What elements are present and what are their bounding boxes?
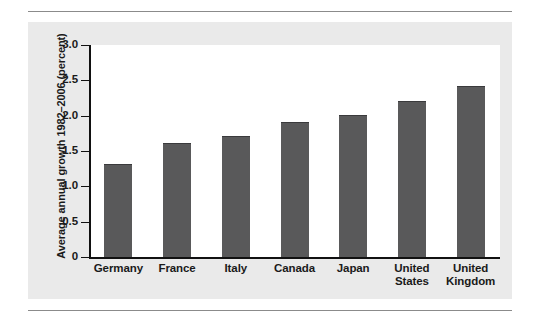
x-axis-line bbox=[89, 257, 500, 259]
y-axis-tick-mark bbox=[81, 222, 89, 223]
y-axis-tick-label: 0 bbox=[30, 250, 78, 262]
chart-panel: 00.51.01.52.02.53.0 Average annual growt… bbox=[28, 22, 512, 299]
y-axis-tick-mark bbox=[81, 151, 89, 152]
y-axis-tick-mark bbox=[81, 80, 89, 81]
y-axis-tick-label: 2.5 bbox=[30, 73, 78, 85]
x-axis-category-label-line: Kingdom bbox=[441, 275, 500, 288]
y-axis-tick-mark bbox=[81, 257, 89, 258]
bar bbox=[281, 122, 309, 257]
bar bbox=[457, 86, 485, 257]
x-axis-category-labels: GermanyFranceItalyCanadaJapanUnitedState… bbox=[89, 262, 500, 302]
x-axis-category-label: Japan bbox=[324, 262, 383, 275]
y-axis-tick-label: 1.0 bbox=[30, 179, 78, 191]
x-axis-category-label-line: France bbox=[148, 262, 207, 275]
x-axis-category-label-line: United bbox=[441, 262, 500, 275]
x-axis-category-label-line: Germany bbox=[89, 262, 148, 275]
bar bbox=[104, 164, 132, 257]
x-axis-category-label-line: States bbox=[383, 275, 442, 288]
x-axis-category-label: Italy bbox=[206, 262, 265, 275]
bar bbox=[222, 136, 250, 257]
x-axis-category-label: UnitedStates bbox=[383, 262, 442, 288]
y-axis-tick-label: 0.5 bbox=[30, 215, 78, 227]
y-axis-tick-mark bbox=[81, 116, 89, 117]
y-axis-tick-mark bbox=[81, 186, 89, 187]
bar-series bbox=[89, 45, 500, 257]
y-axis-tick-label: 1.5 bbox=[30, 144, 78, 156]
figure-container: 00.51.01.52.02.53.0 Average annual growt… bbox=[0, 0, 539, 319]
y-axis-tick-label: 2.0 bbox=[30, 109, 78, 121]
x-axis-category-label: Germany bbox=[89, 262, 148, 275]
y-axis-tick-label: 3.0 bbox=[30, 38, 78, 50]
y-axis-tick-mark bbox=[81, 45, 89, 46]
x-axis-category-label-line: Canada bbox=[265, 262, 324, 275]
figure-top-rule bbox=[28, 11, 512, 12]
x-axis-category-label: UnitedKingdom bbox=[441, 262, 500, 288]
figure-bottom-rule bbox=[28, 310, 512, 311]
x-axis-category-label-line: United bbox=[383, 262, 442, 275]
x-axis-category-label: France bbox=[148, 262, 207, 275]
bar bbox=[163, 143, 191, 257]
x-axis-category-label: Canada bbox=[265, 262, 324, 275]
x-axis-category-label-line: Japan bbox=[324, 262, 383, 275]
bar bbox=[398, 101, 426, 257]
y-axis-title: Average annual growth 1982–2006 (percent… bbox=[55, 26, 67, 266]
bar bbox=[339, 115, 367, 257]
x-axis-category-label-line: Italy bbox=[206, 262, 265, 275]
